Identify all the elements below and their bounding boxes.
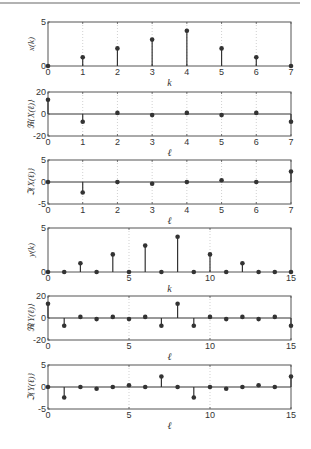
stem-marker — [62, 270, 67, 275]
stem-marker — [46, 301, 51, 306]
subplot-im-Y: 051015-505ℓℑ{Y(ℓ)} — [26, 360, 296, 431]
stem-marker — [240, 315, 245, 320]
x-tick-label: 2 — [115, 137, 120, 147]
stem-marker — [94, 317, 99, 322]
x-tick-label: 5 — [126, 273, 131, 283]
stem-marker — [185, 29, 190, 34]
stem-marker — [80, 190, 85, 195]
stem-marker — [224, 317, 229, 322]
stem-marker — [273, 270, 278, 275]
x-tick-label: 3 — [150, 137, 155, 147]
stem-marker — [224, 270, 229, 275]
x-axis-label: k — [167, 77, 172, 88]
x-axis-label: ℓ — [167, 147, 171, 158]
y-tick-label: 0 — [41, 313, 46, 323]
stem-marker — [80, 119, 85, 124]
x-axis-label: k — [167, 283, 172, 294]
x-axis-label: ℓ — [167, 215, 171, 226]
stem-marker — [115, 111, 120, 116]
x-tick-label: 4 — [184, 205, 189, 215]
stem-marker — [62, 323, 67, 328]
stem-marker — [127, 270, 132, 275]
stem-marker — [254, 180, 259, 185]
x-tick-label: 2 — [115, 205, 120, 215]
stem-marker — [256, 383, 261, 388]
x-tick-label: 15 — [286, 273, 296, 283]
stem-marker — [219, 46, 224, 51]
stem-marker — [192, 270, 197, 275]
x-tick-label: 6 — [254, 205, 259, 215]
x-axis-label: ℓ — [167, 420, 171, 431]
stem-marker — [46, 97, 51, 102]
stem-marker — [240, 385, 245, 390]
stem-marker — [94, 386, 99, 391]
stem-marker — [289, 270, 294, 275]
stem-plot-figure: 0123456705kx(k)01234567-20020ℓℜ{X(ℓ)}012… — [0, 0, 311, 449]
stem-marker — [192, 395, 197, 400]
x-tick-label: 0 — [45, 410, 50, 420]
stem-marker — [208, 252, 213, 257]
x-tick-label: 4 — [184, 137, 189, 147]
x-tick-label: 3 — [150, 67, 155, 77]
stem-marker — [46, 64, 51, 69]
stem-marker — [127, 383, 132, 388]
stem-marker — [175, 301, 180, 306]
y-axis-label: ℑ{Y(ℓ)} — [26, 373, 36, 401]
stem-marker — [175, 385, 180, 390]
stem-marker — [80, 55, 85, 60]
x-tick-label: 15 — [286, 410, 296, 420]
x-tick-label: 15 — [286, 341, 296, 351]
y-tick-label: 0 — [41, 109, 46, 119]
stem-marker — [185, 180, 190, 185]
x-tick-label: 5 — [219, 137, 224, 147]
stem-marker — [115, 180, 120, 185]
x-tick-label: 7 — [288, 137, 293, 147]
y-tick-label: 0 — [41, 382, 46, 392]
x-tick-label: 0 — [45, 341, 50, 351]
stem-marker — [219, 178, 224, 183]
x-tick-label: 5 — [126, 341, 131, 351]
stem-marker — [273, 385, 278, 390]
stem-marker — [143, 315, 148, 320]
stem-marker — [46, 180, 51, 185]
stem-marker — [94, 270, 99, 275]
y-axis-label: ℑ{X(ℓ)} — [26, 167, 36, 196]
y-axis-label: ℜ{Y(ℓ)} — [26, 303, 36, 332]
x-tick-label: 0 — [45, 137, 50, 147]
subplot-y-k: 05101505ky(k) — [26, 223, 296, 294]
stem-marker — [143, 243, 148, 248]
y-axis-label: y(k) — [26, 243, 36, 258]
stem-marker — [78, 315, 83, 320]
x-tick-label: 10 — [205, 273, 215, 283]
stem-marker — [78, 261, 83, 266]
stem-marker — [219, 113, 224, 118]
stem-marker — [46, 270, 51, 275]
x-tick-label: 5 — [219, 67, 224, 77]
x-tick-label: 0 — [45, 273, 50, 283]
y-tick-label: -5 — [38, 199, 46, 209]
y-tick-label: 5 — [41, 360, 46, 370]
x-tick-label: 5 — [126, 410, 131, 420]
x-tick-label: 5 — [219, 205, 224, 215]
stem-marker — [289, 323, 294, 328]
stem-marker — [289, 374, 294, 379]
subplot-x-k: 0123456705kx(k) — [26, 17, 294, 88]
x-tick-label: 4 — [184, 67, 189, 77]
stem-marker — [150, 113, 155, 118]
stem-marker — [159, 374, 164, 379]
stem-marker — [224, 386, 229, 391]
y-tick-label: -5 — [38, 404, 46, 414]
stem-marker — [150, 37, 155, 42]
x-tick-label: 10 — [205, 341, 215, 351]
subplot-re-X: 01234567-20020ℓℜ{X(ℓ)} — [26, 87, 294, 158]
stem-marker — [150, 181, 155, 186]
x-tick-label: 6 — [254, 67, 259, 77]
stem-marker — [208, 385, 213, 390]
x-tick-label: 0 — [45, 205, 50, 215]
stem-marker — [208, 315, 213, 320]
stem-marker — [62, 395, 67, 400]
y-tick-label: 5 — [41, 17, 46, 27]
stem-marker — [240, 261, 245, 266]
axes-box — [48, 22, 291, 66]
x-tick-label: 10 — [205, 410, 215, 420]
